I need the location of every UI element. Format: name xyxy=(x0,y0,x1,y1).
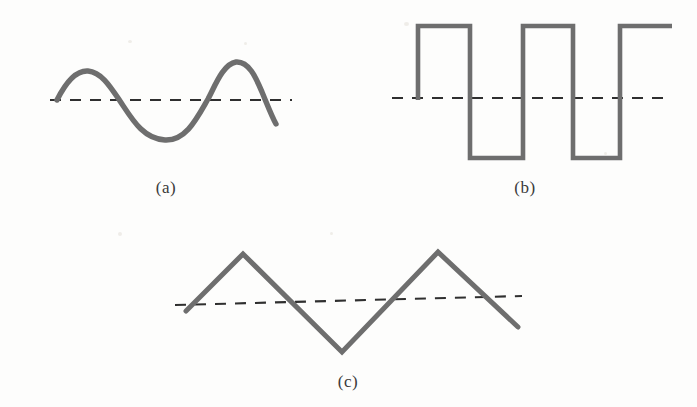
waveform-figure: (a) (b) (c) xyxy=(0,0,697,407)
panel-c-group xyxy=(175,252,522,352)
panel-c-triangle-wave xyxy=(186,252,518,352)
panel-a-group xyxy=(50,62,292,140)
panel-a-sine-curve xyxy=(57,62,276,140)
panel-a-label: (a) xyxy=(156,178,176,198)
panel-b-square-wave xyxy=(418,26,672,158)
panel-b-label: (b) xyxy=(514,178,535,198)
panel-c-reference-axis xyxy=(175,296,522,305)
panel-c-label: (c) xyxy=(338,372,358,392)
waveform-canvas xyxy=(0,0,697,407)
panel-b-group xyxy=(392,26,672,158)
